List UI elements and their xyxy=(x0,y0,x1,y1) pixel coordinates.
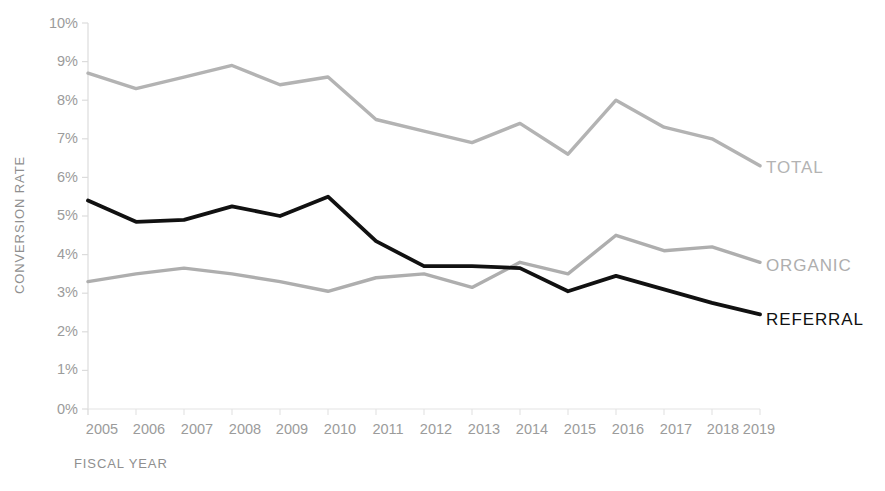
x-tick-label-2018: 2018 xyxy=(707,421,739,437)
y-tick-label-4: 4% xyxy=(57,246,78,262)
x-tick-label-2015: 2015 xyxy=(564,421,596,437)
y-tick-label-7: 7% xyxy=(57,130,78,146)
chart-background xyxy=(0,0,885,491)
y-tick-label-1: 1% xyxy=(57,361,78,377)
x-tick-label-2005: 2005 xyxy=(86,421,118,437)
x-tick-label-2008: 2008 xyxy=(229,421,261,437)
legend-label-referral: REFERRAL xyxy=(766,310,864,329)
y-tick-label-3: 3% xyxy=(57,284,78,300)
x-axis-tick-labels: 2005 2006 2007 2008 2009 2010 2011 2012 … xyxy=(86,421,775,437)
y-tick-label-8: 8% xyxy=(57,92,78,108)
legend-label-organic: ORGANIC xyxy=(766,256,852,275)
x-tick-label-2010: 2010 xyxy=(324,421,356,437)
y-tick-label-2: 2% xyxy=(57,323,78,339)
x-tick-label-2012: 2012 xyxy=(420,421,452,437)
x-tick-label-2011: 2011 xyxy=(372,421,403,437)
x-tick-label-2007: 2007 xyxy=(181,421,213,437)
x-axis-title: FISCAL YEAR xyxy=(74,456,168,471)
x-tick-label-2006: 2006 xyxy=(133,421,165,437)
y-tick-label-5: 5% xyxy=(57,207,78,223)
legend-label-total: TOTAL xyxy=(766,158,824,177)
x-tick-label-2014: 2014 xyxy=(516,421,548,437)
x-tick-label-2009: 2009 xyxy=(276,421,308,437)
x-tick-label-2019: 2019 xyxy=(743,421,775,437)
line-chart: CONVERSION RATE 10% 9% 8% 7% 6% 5% 4% 3%… xyxy=(0,0,885,491)
chart-canvas: CONVERSION RATE 10% 9% 8% 7% 6% 5% 4% 3%… xyxy=(0,0,885,491)
y-tick-label-6: 6% xyxy=(57,169,78,185)
y-tick-label-9: 9% xyxy=(57,53,78,69)
x-tick-label-2016: 2016 xyxy=(612,421,644,437)
x-tick-label-2017: 2017 xyxy=(660,421,692,437)
y-tick-label-10: 10% xyxy=(49,15,78,31)
y-axis-title: CONVERSION RATE xyxy=(12,156,27,294)
x-tick-label-2013: 2013 xyxy=(468,421,500,437)
y-tick-label-0: 0% xyxy=(57,401,78,417)
